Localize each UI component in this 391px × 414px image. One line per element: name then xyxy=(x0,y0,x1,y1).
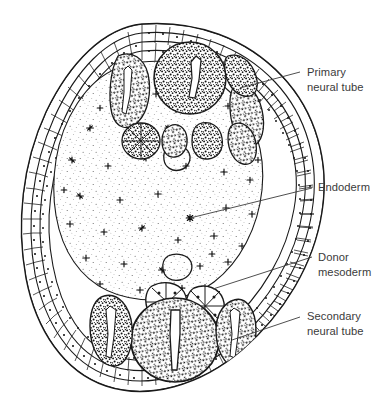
label-endoderm: Endoderm xyxy=(318,181,370,193)
annotation-labels: Primary neural tube Endoderm Donor mesod… xyxy=(307,66,371,337)
somite-right-lower xyxy=(192,123,222,159)
label-primary-neural-tube: Primary neural tube xyxy=(307,66,364,93)
primary-neural-tube xyxy=(154,42,226,114)
label-donor-mesoderm: Donor mesoderm xyxy=(318,251,371,278)
somite-rosette-left-walls xyxy=(123,123,159,159)
somite-right-top xyxy=(225,55,258,96)
label-secondary-neural-tube: Secondary neural tube xyxy=(307,310,364,337)
secondary-neural-tube xyxy=(131,298,219,382)
primary-tube-wall xyxy=(154,42,226,114)
embryo-cross-section-diagram: Primary neural tube Endoderm Donor mesod… xyxy=(0,0,391,414)
somite-mid-upper xyxy=(162,125,187,157)
figure-container: Primary neural tube Endoderm Donor mesod… xyxy=(0,0,391,414)
